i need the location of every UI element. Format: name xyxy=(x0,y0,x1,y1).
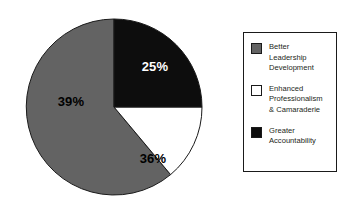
pie-chart-figure: 25% 36% 39% Better Leadership Developmen… xyxy=(0,0,356,212)
legend-swatch-icon xyxy=(251,127,262,138)
pie-chart-graphic: 25% 36% 39% xyxy=(20,13,208,201)
legend-item-greater-accountability[interactable]: Greater Accountability xyxy=(251,126,332,147)
legend-swatch-icon xyxy=(251,85,262,96)
legend-item-enhanced-professionalism[interactable]: Enhanced Professionalism & Camaraderie xyxy=(251,84,332,116)
legend-swatch-icon xyxy=(251,43,262,54)
legend-items: Better Leadership Development Enhanced P… xyxy=(251,42,332,167)
legend: Better Leadership Development Enhanced P… xyxy=(243,32,337,172)
legend-item-label: Enhanced Professionalism & Camaraderie xyxy=(269,84,323,116)
pie-label-better-leadership: 39% xyxy=(58,94,85,109)
legend-item-label: Better Leadership Development xyxy=(269,42,314,74)
pie-label-enhanced-professionalism: 36% xyxy=(140,151,167,166)
legend-item-label: Greater Accountability xyxy=(269,126,316,147)
legend-item-better-leadership[interactable]: Better Leadership Development xyxy=(251,42,332,74)
pie-label-greater-accountability: 25% xyxy=(142,59,169,74)
pie-svg: 25% 36% 39% xyxy=(20,13,208,201)
